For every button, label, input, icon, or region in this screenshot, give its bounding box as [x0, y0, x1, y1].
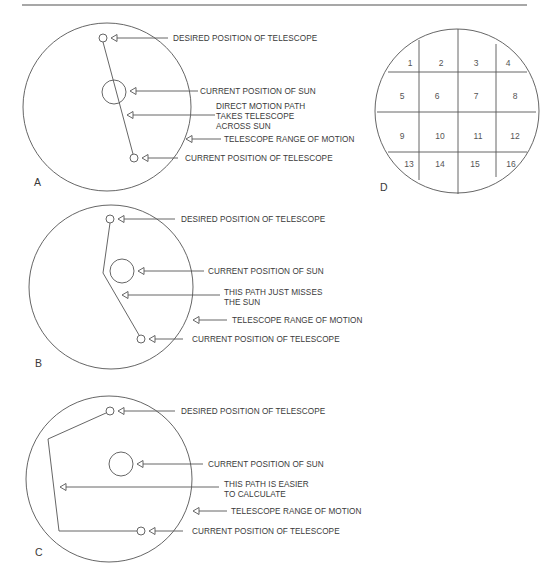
current-telescope-marker — [137, 335, 145, 343]
grid-cell-number: 14 — [435, 159, 445, 169]
callout-desired: DESIRED POSITION OF TELESCOPE — [118, 407, 326, 416]
arrowhead-icon — [137, 461, 143, 468]
callout-label: TELESCOPE RANGE OF MOTION — [224, 135, 354, 144]
arrowhead-icon — [130, 88, 136, 95]
desired-telescope-marker — [106, 215, 114, 223]
grid-cell-number: 13 — [404, 159, 414, 169]
callout-sun: CURRENT POSITION OF SUN — [130, 87, 316, 96]
grid-cell-number: 2 — [439, 58, 444, 68]
panel-letter: A — [34, 176, 41, 188]
callout-label: TO CALCULATE — [224, 490, 286, 499]
arrowhead-icon — [118, 408, 124, 415]
callout-sun: CURRENT POSITION OF SUN — [137, 460, 324, 469]
panels: DESIRED POSITION OF TELESCOPECURRENT POS… — [23, 23, 362, 562]
callout-label: CURRENT POSITION OF SUN — [208, 267, 324, 276]
grid-cell-number: 16 — [506, 159, 516, 169]
panel-letter: B — [35, 357, 42, 369]
callout-desired: DESIRED POSITION OF TELESCOPE — [118, 215, 326, 224]
callout-label: TAKES TELESCOPE — [216, 112, 295, 121]
grid-cell-number: 8 — [513, 91, 518, 101]
grid-cell-number: 1 — [408, 58, 413, 68]
arrowhead-icon — [127, 112, 133, 119]
callout-label: THIS PATH JUST MISSES — [224, 288, 323, 297]
callout-desired: DESIRED POSITION OF TELESCOPE — [111, 34, 318, 43]
grid-cell-number: 7 — [474, 91, 479, 101]
arrowhead-icon — [149, 336, 155, 343]
callout-label: THE SUN — [224, 298, 260, 307]
motion-path — [48, 413, 137, 531]
panel-b: DESIRED POSITION OF TELESCOPECURRENT POS… — [29, 205, 362, 369]
callout-label: CURRENT POSITION OF SUN — [208, 460, 324, 469]
arrowhead-icon — [122, 292, 128, 299]
motion-path — [103, 223, 139, 335]
sun-circle — [110, 259, 134, 283]
current-telescope-marker — [130, 154, 138, 162]
grid-panel-d: 12345678910111213141516D — [375, 29, 539, 194]
callout-current: CURRENT POSITION OF TELESCOPE — [149, 335, 340, 344]
current-telescope-marker — [137, 527, 145, 535]
sun-circle — [109, 452, 133, 476]
grid-cell-number: 15 — [470, 159, 480, 169]
telescope-path-diagram: DESIRED POSITION OF TELESCOPECURRENT POS… — [0, 0, 557, 583]
telescope-range-circle — [26, 396, 192, 562]
callout-label: CURRENT POSITION OF TELESCOPE — [192, 335, 340, 344]
grid-cell-number: 3 — [474, 58, 479, 68]
arrowhead-icon — [186, 136, 192, 143]
arrowhead-icon — [142, 155, 148, 162]
grid-cell-number: 9 — [400, 131, 405, 141]
arrowhead-icon — [193, 508, 199, 515]
callout-label: TELESCOPE RANGE OF MOTION — [232, 316, 362, 325]
panel-letter: D — [380, 181, 388, 193]
grid-cell-number: 11 — [474, 131, 483, 141]
callout-range: TELESCOPE RANGE OF MOTION — [193, 507, 361, 516]
callout-label: CURRENT POSITION OF TELESCOPE — [185, 154, 333, 163]
callout-range: TELESCOPE RANGE OF MOTION — [186, 135, 354, 144]
callout-current: CURRENT POSITION OF TELESCOPE — [149, 527, 340, 536]
arrowhead-icon — [111, 35, 117, 42]
callout-path: DIRECT MOTION PATHTAKES TELESCOPEACROSS … — [127, 102, 305, 131]
arrowhead-icon — [60, 484, 66, 491]
desired-telescope-marker — [99, 34, 107, 42]
arrowhead-icon — [118, 216, 124, 223]
callout-label: DESIRED POSITION OF TELESCOPE — [181, 215, 326, 224]
panel-a: DESIRED POSITION OF TELESCOPECURRENT POS… — [23, 23, 354, 191]
callout-range: TELESCOPE RANGE OF MOTION — [193, 316, 362, 325]
telescope-range-circle — [23, 23, 191, 191]
callout-label: THIS PATH IS EASIER — [224, 480, 309, 489]
desired-telescope-marker — [106, 407, 114, 415]
callout-label: TELESCOPE RANGE OF MOTION — [231, 507, 361, 516]
callout-path: THIS PATH IS EASIERTO CALCULATE — [60, 480, 309, 499]
arrowhead-icon — [149, 528, 155, 535]
callout-label: CURRENT POSITION OF TELESCOPE — [192, 527, 340, 536]
panel-c: DESIRED POSITION OF TELESCOPECURRENT POS… — [26, 396, 361, 562]
grid-cell-number: 10 — [435, 131, 445, 141]
arrowhead-icon — [138, 268, 144, 275]
motion-path — [103, 42, 133, 154]
callout-path: THIS PATH JUST MISSESTHE SUN — [122, 288, 323, 307]
callout-label: CURRENT POSITION OF SUN — [200, 87, 316, 96]
callout-sun: CURRENT POSITION OF SUN — [138, 267, 324, 276]
arrowhead-icon — [193, 317, 199, 324]
callout-label: DESIRED POSITION OF TELESCOPE — [181, 407, 326, 416]
grid-cell-number: 6 — [435, 91, 440, 101]
grid-cell-number: 5 — [400, 91, 405, 101]
grid-cell-number: 4 — [506, 58, 511, 68]
grid-cell-number: 12 — [510, 131, 520, 141]
callout-label: DESIRED POSITION OF TELESCOPE — [173, 34, 318, 43]
panel-letter: C — [35, 546, 43, 558]
callout-label: DIRECT MOTION PATH — [216, 102, 305, 111]
callout-label: ACROSS SUN — [216, 122, 271, 131]
